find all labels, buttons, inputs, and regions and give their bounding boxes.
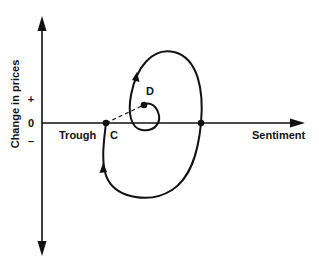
- curve-arrow-lower-icon: [100, 163, 108, 173]
- arrow-up-icon: [38, 16, 47, 31]
- x-axis: [42, 119, 305, 128]
- cycle-diagram: Change in prices + 0 – Sentiment Trough …: [0, 0, 319, 268]
- x-axis-label: Sentiment: [252, 129, 306, 141]
- y-tick-minus: –: [28, 135, 34, 147]
- point-c-label: C: [110, 129, 118, 141]
- point-d-marker: [141, 102, 148, 109]
- point-right-crossing-marker: [198, 120, 205, 127]
- cycle-curve: [103, 51, 201, 197]
- y-tick-plus: +: [28, 93, 34, 105]
- y-tick-zero: 0: [28, 117, 34, 129]
- point-c-marker: [103, 120, 110, 127]
- c-to-d-dashed-line: [106, 105, 144, 123]
- arrow-down-icon: [38, 241, 47, 256]
- arrow-right-icon: [290, 119, 305, 128]
- trough-label: Trough: [59, 129, 97, 141]
- y-axis-label: Change in prices: [9, 60, 21, 149]
- point-d-label: D: [146, 85, 154, 97]
- y-axis: [38, 16, 47, 256]
